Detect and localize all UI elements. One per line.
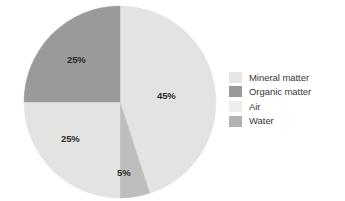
legend-item-water[interactable]: Water [229, 114, 345, 129]
pie-chart-plot-area: 45% 25% 25% 5% [0, 0, 240, 201]
legend-swatch-air [229, 101, 242, 112]
legend-item-air[interactable]: Air [229, 99, 345, 114]
legend-label-organic-matter: Organic matter [249, 87, 311, 97]
pie-slice-water[interactable] [24, 102, 120, 198]
pie-slice-label-air: 5% [117, 168, 131, 178]
legend-label-air: Air [249, 102, 260, 112]
pie-slice-label-water: 25% [61, 134, 80, 144]
legend-swatch-organic-matter [229, 86, 242, 97]
legend-label-water: Water [249, 116, 274, 126]
legend-label-mineral-matter: Mineral matter [249, 73, 309, 83]
pie-chart-figure: 45% 25% 25% 5% Mineral matter Organic ma… [0, 0, 345, 201]
legend-swatch-water [229, 116, 242, 127]
legend-item-organic-matter[interactable]: Organic matter [229, 85, 345, 100]
chart-legend: Mineral matter Organic matter Air Water [229, 70, 345, 128]
pie-slice-label-mineral-matter: 45% [157, 91, 176, 101]
legend-item-mineral-matter[interactable]: Mineral matter [229, 70, 345, 85]
legend-swatch-mineral-matter [229, 72, 242, 83]
pie-slice-label-organic-matter: 25% [67, 55, 86, 65]
